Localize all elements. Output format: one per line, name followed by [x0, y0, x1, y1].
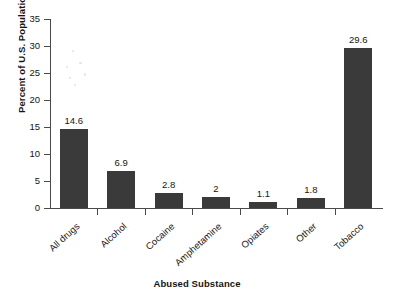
bar-value-label: 1.1 — [238, 189, 288, 199]
bar-value-label: 14.6 — [49, 116, 99, 126]
y-axis-tick — [44, 208, 50, 209]
bar — [107, 171, 135, 208]
bar-value-label: 29.6 — [333, 35, 383, 45]
scan-artifact — [84, 73, 86, 76]
bar-value-label: 2.8 — [144, 180, 194, 190]
bar-chart-figure: Percent of U.S. Population 3530252015105… — [0, 0, 394, 300]
scan-artifact — [66, 66, 68, 68]
x-axis-tick — [145, 209, 146, 215]
bar — [297, 198, 325, 208]
x-axis-tick — [97, 209, 98, 215]
bar-value-label: 2 — [191, 184, 241, 194]
scan-artifact — [72, 50, 74, 52]
bar — [249, 202, 277, 208]
x-axis-tick — [192, 209, 193, 215]
bar — [60, 129, 88, 208]
bar — [155, 193, 183, 208]
bar-value-label: 1.8 — [286, 185, 336, 195]
x-axis-tick — [335, 209, 336, 215]
bar — [344, 48, 372, 208]
x-axis-line — [50, 208, 383, 209]
bar — [202, 197, 230, 208]
x-axis-tick — [287, 209, 288, 215]
scan-artifact — [79, 62, 82, 64]
scan-artifact — [74, 84, 76, 86]
x-axis-tick — [240, 209, 241, 215]
bar-value-label: 6.9 — [96, 158, 146, 168]
scan-artifact — [69, 77, 71, 79]
x-axis-title: Abused Substance — [0, 278, 394, 289]
bars-layer — [0, 0, 394, 208]
